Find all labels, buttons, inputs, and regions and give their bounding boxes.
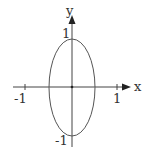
x-tick-label-pos: 1 [113, 91, 121, 106]
x-tick-label-neg: -1 [14, 91, 27, 106]
y-tick-label-pos: 1 [62, 26, 70, 41]
origin-point [71, 86, 74, 89]
x-axis-label: x [134, 79, 142, 94]
x-axis-arrow-icon [122, 84, 131, 91]
y-axis-label: y [65, 3, 74, 18]
y-tick-label-neg: -1 [55, 133, 68, 148]
ellipse-plot: x y -1 1 1 -1 [0, 0, 150, 153]
